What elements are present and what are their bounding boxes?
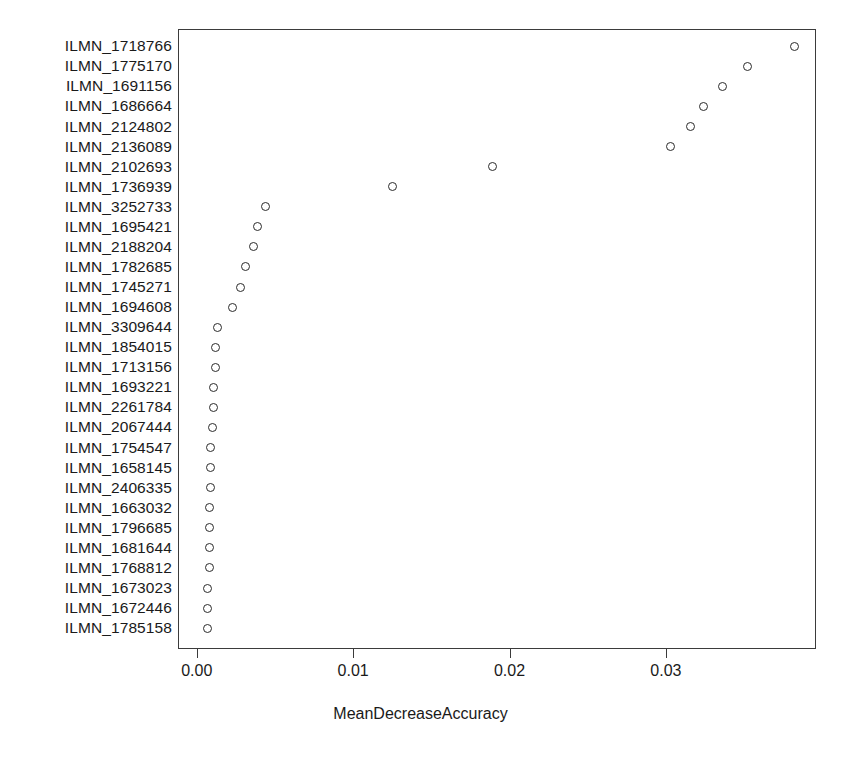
y-axis-label: ILMN_1718766 (0, 39, 172, 55)
x-axis-tick (510, 649, 511, 658)
x-axis-tick-label: 0.01 (338, 662, 369, 680)
y-axis-label: ILMN_3252733 (0, 199, 172, 215)
y-axis-label: ILMN_1681644 (0, 540, 172, 556)
y-axis-label: ILMN_1694608 (0, 299, 172, 315)
y-axis-label: ILMN_1713156 (0, 360, 172, 376)
y-axis-label: ILMN_2136089 (0, 139, 172, 155)
y-axis-label: ILMN_2102693 (0, 159, 172, 175)
chart-title (0, 0, 841, 3)
y-axis-label: ILMN_1782685 (0, 259, 172, 275)
y-axis-label: ILMN_2261784 (0, 400, 172, 416)
x-axis-title: MeanDecreaseAccuracy (0, 705, 841, 723)
y-axis-label: ILMN_3309644 (0, 319, 172, 335)
y-axis-label: ILMN_1775170 (0, 59, 172, 75)
y-axis-label: ILMN_1785158 (0, 620, 172, 636)
y-axis-label: ILMN_1686664 (0, 99, 172, 115)
x-axis-tick (666, 649, 667, 658)
y-axis-label: ILMN_1736939 (0, 179, 172, 195)
plot-frame (178, 29, 816, 649)
y-axis-label: ILMN_1796685 (0, 520, 172, 536)
x-axis-tick-label: 0.03 (650, 662, 681, 680)
y-axis-label: ILMN_2406335 (0, 480, 172, 496)
y-axis-label: ILMN_1693221 (0, 380, 172, 396)
y-axis-label: ILMN_1673023 (0, 580, 172, 596)
y-axis-label: ILMN_1745271 (0, 279, 172, 295)
y-axis-label: ILMN_1663032 (0, 500, 172, 516)
y-axis-label-list: ILMN_1718766ILMN_1775170ILMN_1691156ILMN… (0, 29, 172, 649)
y-axis-label: ILMN_1672446 (0, 600, 172, 616)
chart-page: ILMN_1718766ILMN_1775170ILMN_1691156ILMN… (0, 0, 841, 759)
x-axis: 0.000.010.020.03 (178, 649, 816, 709)
y-axis-label: ILMN_1695421 (0, 219, 172, 235)
x-axis-tick-label: 0.00 (181, 662, 212, 680)
y-axis-label: ILMN_2124802 (0, 119, 172, 135)
x-axis-tick (197, 649, 198, 658)
x-axis-tick (353, 649, 354, 658)
y-axis-label: ILMN_1854015 (0, 339, 172, 355)
y-axis-label: ILMN_2188204 (0, 239, 172, 255)
y-axis-label: ILMN_1768812 (0, 560, 172, 576)
y-axis-label: ILMN_1658145 (0, 460, 172, 476)
y-axis-label: ILMN_1691156 (0, 79, 172, 95)
y-axis-label: ILMN_2067444 (0, 420, 172, 436)
y-axis-label: ILMN_1754547 (0, 440, 172, 456)
x-axis-tick-label: 0.02 (494, 662, 525, 680)
